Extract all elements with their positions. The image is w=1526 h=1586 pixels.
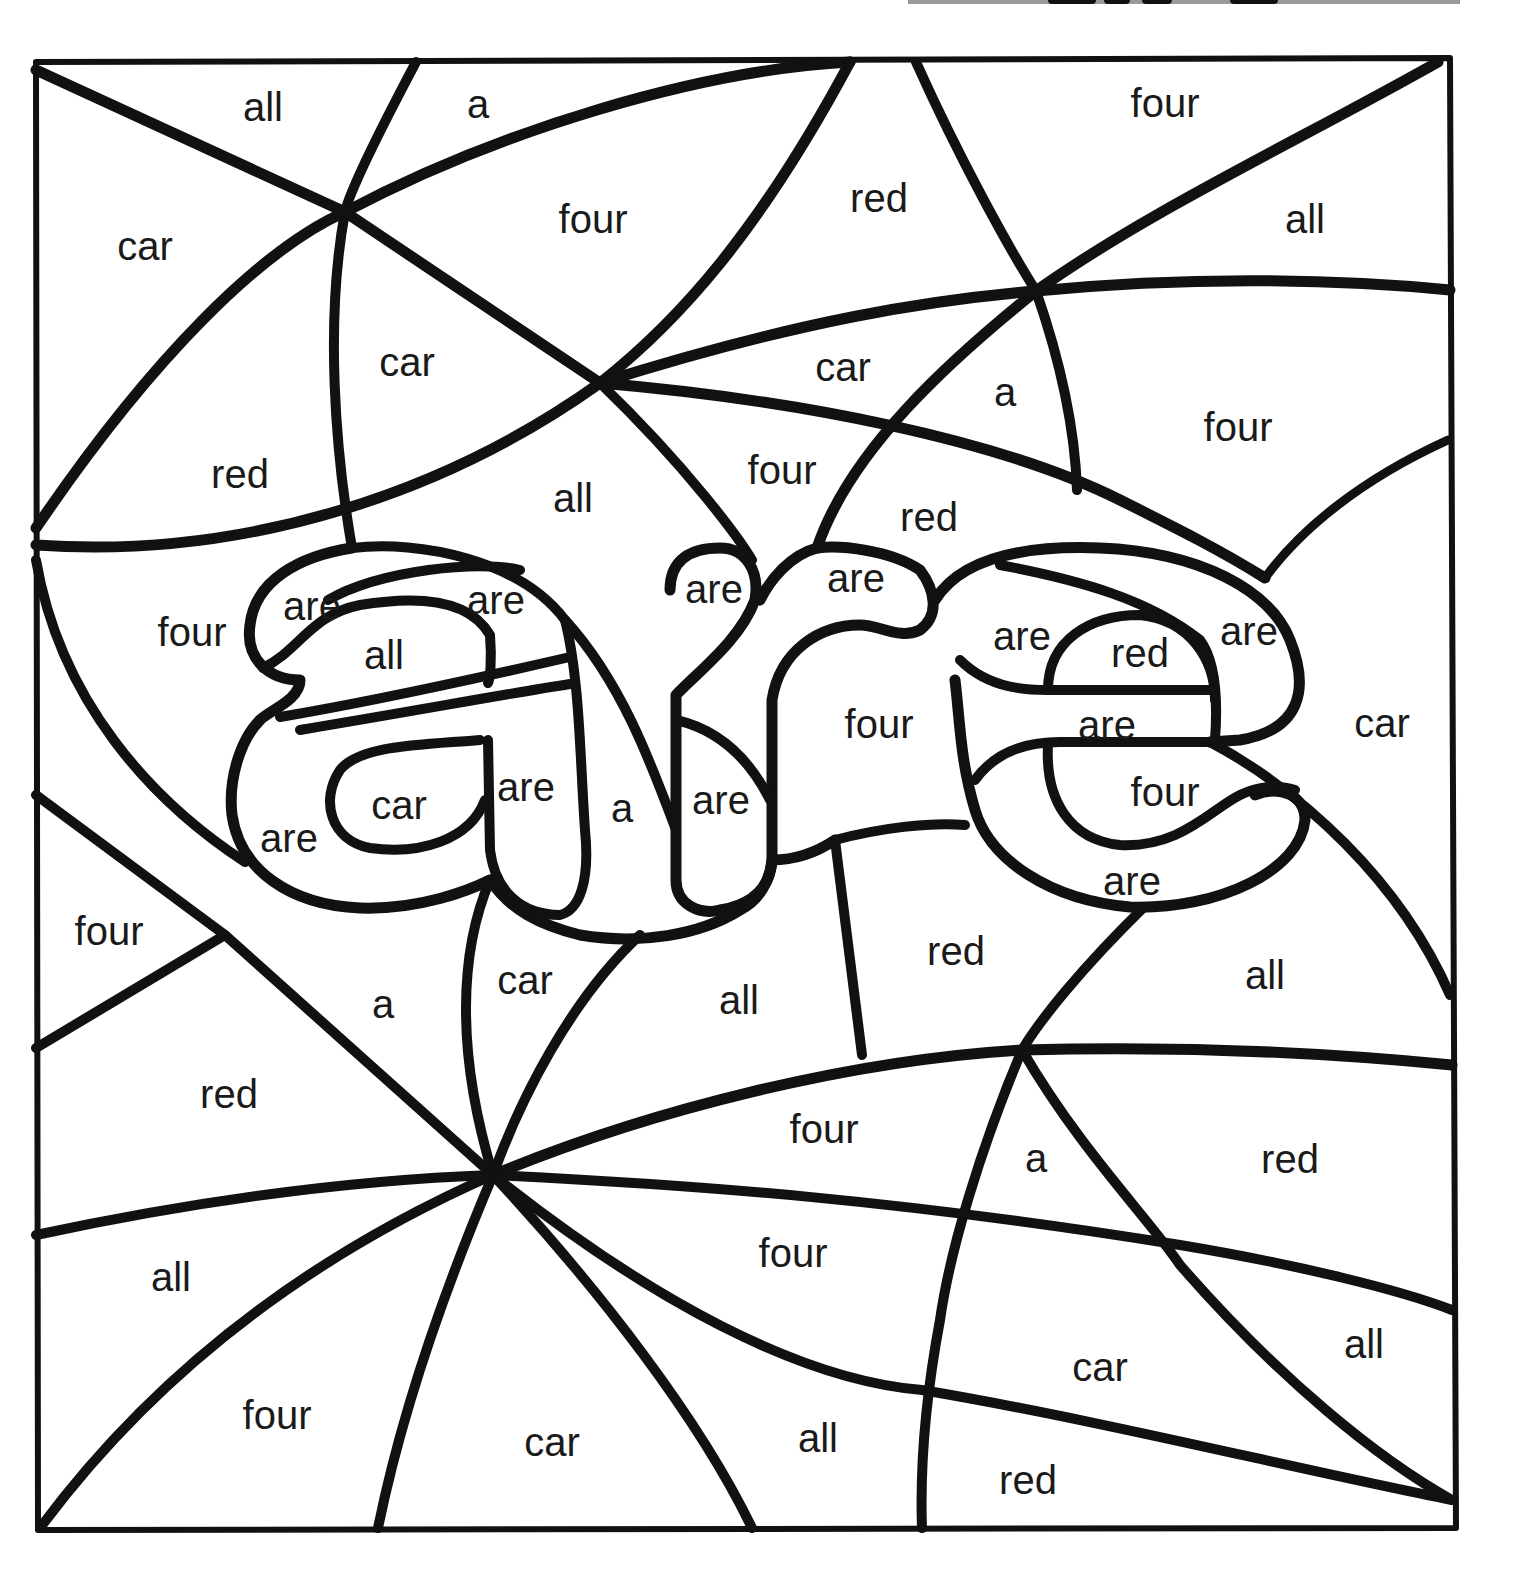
region-label-are[interactable]: are <box>467 580 525 620</box>
region-label-all[interactable]: all <box>719 980 759 1020</box>
region-line <box>1022 1050 1452 1500</box>
region-label-are[interactable]: are <box>685 569 743 609</box>
region-label-red[interactable]: red <box>1111 633 1169 673</box>
region-label-car[interactable]: car <box>1072 1347 1128 1387</box>
region-line <box>600 281 1450 383</box>
region-label-are[interactable]: are <box>993 616 1051 656</box>
region-label-four[interactable]: four <box>790 1109 859 1149</box>
region-label-are[interactable]: are <box>1078 705 1136 745</box>
region-label-four[interactable]: four <box>1131 83 1200 123</box>
region-label-a[interactable]: a <box>1025 1138 1047 1178</box>
region-label-red[interactable]: red <box>200 1074 258 1114</box>
region-label-all[interactable]: all <box>1344 1324 1384 1364</box>
region-label-four[interactable]: four <box>1131 772 1200 812</box>
region-label-are[interactable]: are <box>1220 611 1278 651</box>
region-label-four[interactable]: four <box>1204 407 1273 447</box>
region-label-four[interactable]: four <box>75 911 144 951</box>
region-label-four[interactable]: four <box>748 450 817 490</box>
region-label-are[interactable]: are <box>1103 861 1161 901</box>
region-label-car[interactable]: car <box>524 1422 580 1462</box>
region-label-red[interactable]: red <box>900 497 958 537</box>
region-label-car[interactable]: car <box>497 960 553 1000</box>
region-label-a[interactable]: a <box>467 84 489 124</box>
region-line <box>835 824 965 840</box>
region-line <box>36 62 850 547</box>
region-label-are[interactable]: are <box>497 767 555 807</box>
letter-e-bar-top <box>960 660 1215 690</box>
region-line <box>466 880 493 1175</box>
region-label-are[interactable]: are <box>260 818 318 858</box>
region-label-all[interactable]: all <box>364 635 404 675</box>
region-label-all[interactable]: all <box>243 87 283 127</box>
region-label-red[interactable]: red <box>927 931 985 971</box>
region-label-red[interactable]: red <box>1261 1139 1319 1179</box>
region-label-are[interactable]: are <box>283 586 341 626</box>
coloring-worksheet: allafourcarfourredallcarcarafourredallfo… <box>0 0 1526 1586</box>
region-label-all[interactable]: all <box>1245 955 1285 995</box>
region-line <box>835 840 862 1055</box>
region-label-car[interactable]: car <box>379 342 435 382</box>
region-label-all[interactable]: all <box>1285 199 1325 239</box>
region-label-car[interactable]: car <box>117 226 173 266</box>
region-label-are[interactable]: are <box>827 558 885 598</box>
region-line <box>600 383 752 560</box>
region-label-car[interactable]: car <box>815 347 871 387</box>
region-label-a[interactable]: a <box>994 372 1016 412</box>
region-label-four[interactable]: four <box>759 1233 828 1273</box>
region-label-are[interactable]: are <box>692 780 750 820</box>
region-line <box>1022 908 1143 1050</box>
region-label-car[interactable]: car <box>371 785 427 825</box>
region-label-four[interactable]: four <box>559 199 628 239</box>
region-label-four[interactable]: four <box>243 1395 312 1435</box>
region-label-red[interactable]: red <box>850 178 908 218</box>
region-label-all[interactable]: all <box>798 1418 838 1458</box>
region-label-four[interactable]: four <box>845 704 914 744</box>
region-line <box>334 62 416 548</box>
region-label-red[interactable]: red <box>211 454 269 494</box>
region-line <box>493 1175 752 1528</box>
region-label-all[interactable]: all <box>553 478 593 518</box>
region-line <box>922 1050 1022 1528</box>
region-label-car[interactable]: car <box>1354 703 1410 743</box>
region-label-a[interactable]: a <box>611 788 633 828</box>
region-label-red[interactable]: red <box>999 1460 1057 1500</box>
region-label-four[interactable]: four <box>158 612 227 652</box>
region-label-all[interactable]: all <box>151 1257 191 1297</box>
region-line <box>1265 440 1448 578</box>
region-label-a[interactable]: a <box>372 984 394 1024</box>
